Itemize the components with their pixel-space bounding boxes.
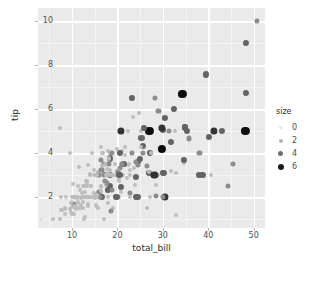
data-point — [82, 217, 86, 221]
y-tick-label: 6 — [48, 105, 53, 113]
data-point — [117, 128, 124, 135]
data-point — [137, 156, 143, 162]
x-tick-label: 30 — [158, 232, 168, 240]
data-point — [126, 129, 130, 133]
data-point — [206, 134, 212, 140]
data-point — [58, 126, 62, 130]
gridline-y-major — [38, 109, 265, 110]
data-point — [158, 145, 166, 153]
data-point — [151, 172, 158, 179]
data-point — [171, 106, 177, 112]
data-point — [88, 173, 92, 177]
legend-swatch — [274, 151, 287, 156]
plot-panel — [38, 8, 265, 228]
data-point — [123, 153, 127, 157]
data-point — [102, 217, 106, 221]
data-point — [187, 136, 192, 141]
data-point — [156, 108, 161, 113]
data-point — [132, 166, 136, 170]
data-point — [107, 162, 112, 167]
data-point — [123, 145, 127, 149]
data-point — [168, 139, 174, 145]
data-point — [116, 172, 122, 178]
y-tick-label: 10 — [43, 17, 53, 25]
data-point — [209, 173, 213, 177]
legend-dot-icon — [278, 164, 284, 170]
data-point — [39, 218, 42, 221]
data-point — [133, 183, 137, 187]
data-point — [109, 151, 114, 156]
legend-label: 6 — [292, 163, 297, 171]
data-point — [255, 19, 260, 24]
data-point — [133, 174, 139, 180]
data-point — [131, 115, 135, 119]
legend-item: 6 — [274, 160, 320, 173]
data-point — [64, 197, 67, 200]
y-axis-title: tip — [10, 95, 20, 135]
y-tick-label: 4 — [48, 149, 53, 157]
x-tick-label: 40 — [203, 232, 213, 240]
gridline-x-minor — [186, 8, 187, 228]
gridline-y-major — [38, 21, 265, 22]
data-point — [106, 195, 110, 199]
gridline-x-major — [208, 8, 209, 228]
data-point — [86, 204, 90, 208]
legend-swatch — [274, 139, 287, 143]
data-point — [243, 90, 249, 96]
data-point — [96, 206, 100, 210]
legend: size 0246 — [274, 108, 320, 173]
legend-item: 0 — [274, 121, 320, 134]
data-point — [108, 168, 112, 172]
data-point — [128, 168, 132, 172]
y-tick-mark — [35, 197, 38, 198]
data-point — [210, 128, 217, 135]
legend-dot-icon — [279, 139, 283, 143]
data-point — [197, 151, 202, 156]
data-point — [99, 145, 103, 149]
gridline-y-major — [38, 65, 265, 66]
scatter-plot-figure: total_bill tip size 0246 102030405024681… — [0, 0, 320, 285]
data-point — [141, 151, 146, 156]
data-point — [58, 217, 62, 221]
data-point — [166, 129, 171, 134]
legend-title: size — [276, 108, 320, 116]
y-tick-mark — [35, 21, 38, 22]
data-point — [129, 151, 134, 156]
data-point — [162, 115, 168, 121]
data-point — [99, 189, 103, 193]
data-point — [63, 212, 67, 216]
data-point — [230, 162, 235, 167]
data-point — [60, 208, 64, 212]
x-axis-title: total_bill — [38, 243, 265, 253]
data-point — [154, 183, 158, 187]
legend-label: 0 — [292, 124, 297, 132]
data-point — [128, 195, 132, 199]
data-point — [174, 213, 178, 217]
data-point — [225, 184, 230, 189]
legend-dot-icon — [279, 126, 282, 129]
y-tick-label: 2 — [48, 193, 53, 201]
data-point — [241, 127, 249, 135]
data-point — [109, 188, 114, 193]
data-point — [119, 190, 123, 194]
data-point — [109, 209, 114, 214]
data-point — [125, 176, 129, 180]
y-tick-mark — [35, 65, 38, 66]
data-point — [106, 201, 110, 205]
legend-swatch — [274, 164, 287, 170]
data-point — [59, 195, 63, 199]
legend-swatch — [274, 126, 287, 129]
data-point — [199, 172, 205, 178]
legend-label: 2 — [292, 137, 297, 145]
data-point — [174, 171, 178, 175]
x-tick-label: 10 — [67, 232, 77, 240]
data-point — [148, 195, 152, 199]
data-point — [138, 135, 144, 141]
data-point — [71, 182, 75, 186]
y-tick-label: 8 — [48, 61, 53, 69]
legend-items: 0246 — [274, 121, 320, 173]
data-point — [90, 151, 94, 155]
data-point — [169, 169, 173, 173]
data-point — [77, 165, 81, 169]
legend-item: 2 — [274, 134, 320, 147]
